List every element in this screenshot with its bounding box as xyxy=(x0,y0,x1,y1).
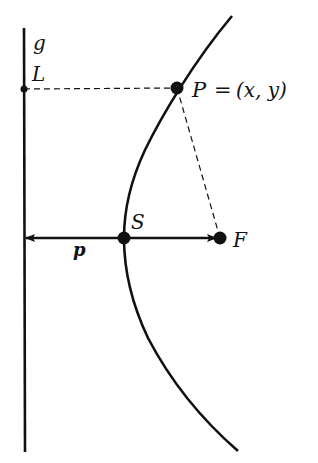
point-s xyxy=(118,232,131,245)
point-p xyxy=(171,82,184,95)
label-p-equals: = xyxy=(214,78,232,102)
dashed-segment-pf xyxy=(177,88,220,238)
label-p-coordinates: (x, y) xyxy=(236,78,287,102)
label-parameter-p: p xyxy=(73,239,86,260)
label-p-point: P xyxy=(191,78,207,102)
point-f xyxy=(214,232,227,245)
point-l xyxy=(21,86,28,93)
label-focus-f: F xyxy=(232,228,248,252)
dashed-segment-pl xyxy=(24,88,177,89)
label-vertex-s: S xyxy=(131,210,145,234)
label-directrix-g: g xyxy=(33,31,46,55)
parabola-diagram: g L P = (x, y) S F p xyxy=(0,0,318,463)
label-l: L xyxy=(31,62,45,86)
